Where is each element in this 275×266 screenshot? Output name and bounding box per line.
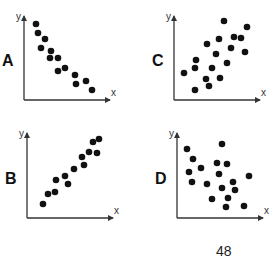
data-point [244,24,251,31]
data-point [232,187,239,194]
x-axis-label: x [111,87,116,98]
y-axis-label: y [16,11,21,22]
data-point [206,83,213,90]
data-point [189,179,196,186]
data-point [181,70,188,77]
data-point [45,191,52,198]
data-point [228,45,235,52]
data-point [241,203,248,210]
data-point [198,165,205,172]
scatter-panel-a: yxA [2,11,116,100]
data-point [203,76,210,83]
x-axis-label: x [261,87,266,98]
data-point [242,49,249,56]
data-point [53,177,60,184]
panel-label: C [152,52,164,69]
data-point [72,72,79,79]
data-point [219,141,226,148]
data-point [96,136,103,143]
data-point [52,189,59,196]
y-axis-label: y [169,128,174,139]
data-point [221,18,228,25]
data-point [216,36,223,43]
data-point [55,55,62,62]
data-point [62,173,69,180]
data-point [223,204,230,211]
data-point [186,169,193,176]
page-number: 48 [216,243,232,259]
data-point [204,41,211,48]
data-point [217,75,224,82]
data-point [65,181,72,188]
data-point [192,87,199,94]
data-point [86,149,93,156]
data-point [192,65,199,72]
x-axis-label: x [114,205,119,216]
data-point [209,196,216,203]
data-point [204,181,211,188]
data-point [71,166,78,173]
data-point [90,139,97,146]
data-point [190,156,197,163]
panel-label: A [2,52,14,69]
data-point [47,55,54,62]
data-point [184,146,191,153]
data-point [83,78,90,85]
data-point [213,51,220,58]
data-point [246,173,253,180]
data-point [238,35,245,42]
data-point [224,60,231,67]
data-point [209,65,216,72]
data-point [94,150,101,157]
panel-label: B [5,170,17,187]
data-point [225,195,232,202]
data-point [224,161,231,168]
data-point [214,160,221,167]
data-point [55,68,62,75]
scatter-panel-b: yxB [5,128,119,218]
data-point [62,65,69,72]
scatter-panel-c: yxC [152,11,266,100]
data-point [89,87,96,94]
data-point [48,48,55,55]
data-point [40,201,47,208]
data-point [79,154,86,161]
data-point [193,57,200,64]
x-axis-label: x [264,205,269,216]
y-axis-label: y [166,11,171,22]
scatter-panel-d: yxD [155,128,269,218]
data-point [230,179,237,186]
data-point [81,162,88,169]
data-point [33,21,40,28]
y-axis-label: y [19,128,24,139]
data-point [231,34,238,41]
data-point [219,185,226,192]
data-point [35,30,42,37]
scatter-plots-figure: yxAyxCyxByxD [0,0,275,266]
data-point [42,36,49,43]
panel-label: D [155,170,167,187]
data-point [73,81,80,88]
data-point [216,171,223,178]
data-point [38,45,45,52]
